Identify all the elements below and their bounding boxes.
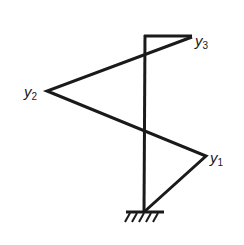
mode-shape-diagram: y3 y2 y1 <box>0 0 244 245</box>
column-line <box>144 35 145 212</box>
label-y1: y1 <box>209 149 224 168</box>
label-y2: y2 <box>23 83 38 102</box>
mode-shape-line <box>47 37 206 212</box>
fixed-support-icon <box>125 212 164 222</box>
label-y3: y3 <box>194 32 209 51</box>
